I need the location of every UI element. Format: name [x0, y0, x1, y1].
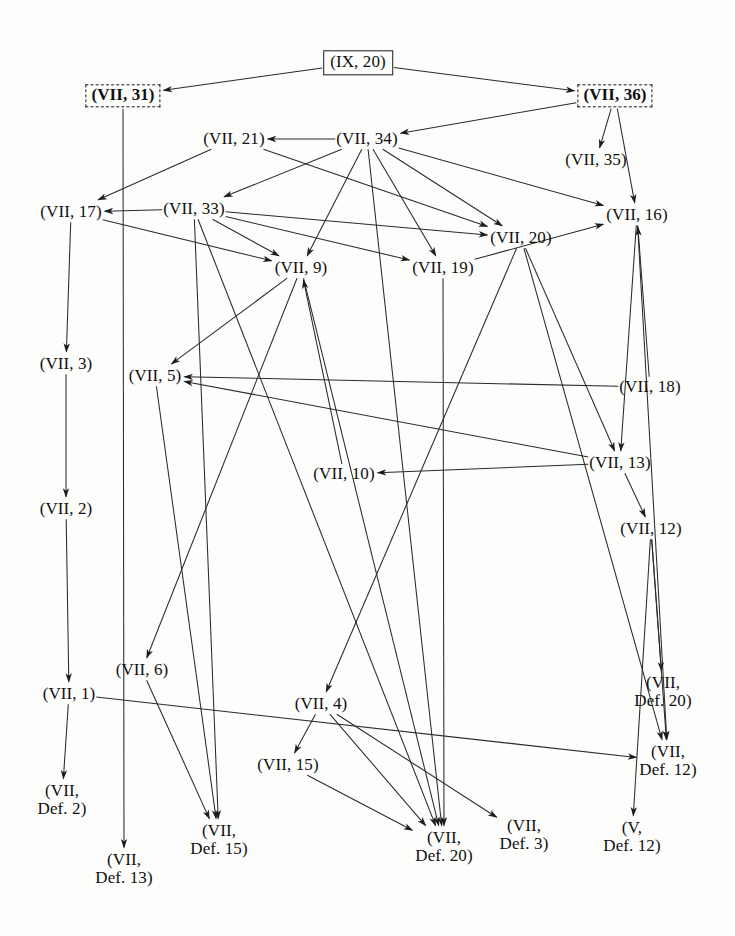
graph-edge: [172, 278, 288, 364]
node-label-line: Def. 15): [190, 840, 247, 858]
graph-edge: [105, 210, 163, 211]
node-label-line: (VII,: [415, 829, 472, 847]
graph-edge: [337, 714, 497, 817]
graph-node-vdef12[interactable]: (V,Def. 12): [603, 819, 660, 856]
graph-edge: [156, 386, 216, 818]
graph-edge: [304, 278, 439, 825]
node-label-line: (VII, 33): [163, 200, 224, 218]
graph-node-viidef2[interactable]: (VII,Def. 2): [38, 782, 87, 819]
graph-node-viidef15[interactable]: (VII,Def. 15): [190, 822, 247, 859]
node-label-line: (VII, 21): [203, 130, 264, 148]
graph-node-vii18[interactable]: (VII, 18): [619, 378, 680, 396]
node-label-line: (VII, 4): [295, 695, 348, 713]
graph-edge: [103, 220, 272, 261]
graph-edge: [226, 212, 488, 235]
graph-edge: [625, 473, 646, 517]
graph-edge: [307, 149, 362, 256]
graph-edge: [330, 714, 426, 825]
graph-node-vii2[interactable]: (VII, 2): [40, 500, 93, 518]
graph-edge: [526, 248, 615, 451]
node-label-line: (VII, 1): [43, 685, 96, 703]
node-label-line: (VII, 20): [490, 229, 551, 247]
node-label-line: (VII,: [38, 782, 87, 800]
graph-node-vii10[interactable]: (VII, 10): [313, 465, 374, 483]
graph-node-vii6[interactable]: (VII, 6): [116, 661, 169, 679]
graph-node-viidef13[interactable]: (VII,Def. 13): [95, 851, 152, 888]
graph-node-vii17[interactable]: (VII, 17): [40, 203, 101, 221]
node-label-line: Def. 20): [634, 692, 691, 710]
diagram-canvas: (IX, 20)(VII, 31)(VII, 36)(VII, 21)(VII,…: [0, 0, 735, 936]
node-label-line: (VII, 15): [257, 756, 318, 774]
node-label-line: (VII, 35): [565, 151, 626, 169]
graph-node-vii34[interactable]: (VII, 34): [336, 130, 397, 148]
node-label-line: (VII, 10): [313, 465, 374, 483]
node-label-line: (V,: [603, 819, 660, 837]
node-label-line: Def. 12): [639, 761, 696, 779]
graph-edge: [368, 149, 442, 825]
graph-node-vii21[interactable]: (VII, 21): [203, 130, 264, 148]
node-label-line: (VII, 36): [583, 86, 646, 104]
graph-edge: [638, 225, 667, 739]
node-label-line: (VII,: [500, 817, 549, 835]
node-label-line: (VII,: [190, 822, 247, 840]
graph-edge: [98, 149, 211, 200]
node-label-line: (VII, 13): [589, 454, 650, 472]
graph-node-vii1[interactable]: (VII, 1): [43, 685, 96, 703]
graph-node-viidef20[interactable]: (VII,Def. 20): [415, 829, 472, 866]
node-label-line: (VII, 17): [40, 203, 101, 221]
graph-node-viidef12[interactable]: (VII,Def. 12): [639, 743, 696, 780]
graph-node-vii3[interactable]: (VII, 3): [40, 355, 93, 373]
graph-edge: [524, 248, 662, 739]
graph-node-vii12[interactable]: (VII, 12): [620, 520, 681, 538]
node-label-line: (VII,: [634, 674, 691, 692]
node-label-line: (VII, 19): [412, 259, 473, 277]
node-label-line: Def. 13): [95, 869, 152, 887]
graph-node-viidef3[interactable]: (VII,Def. 3): [500, 817, 549, 854]
node-label-line: (VII, 3): [40, 355, 93, 373]
graph-node-vii35[interactable]: (VII, 35): [565, 151, 626, 169]
graph-node-vii9[interactable]: (VII, 9): [275, 259, 328, 277]
node-label-line: Def. 2): [38, 800, 87, 818]
node-label-line: (VII, 6): [116, 661, 169, 679]
graph-node-vii5[interactable]: (VII, 5): [129, 367, 182, 385]
graph-edge: [638, 227, 649, 377]
graph-edge: [184, 382, 588, 458]
graph-edge: [304, 280, 342, 464]
node-label-line: (VII, 34): [336, 130, 397, 148]
graph-edge: [198, 219, 436, 825]
graph-edge: [621, 225, 637, 451]
graph-node-vii4[interactable]: (VII, 4): [295, 695, 348, 713]
graph-edge: [63, 704, 68, 778]
graph-node-vii20[interactable]: (VII, 20): [490, 229, 551, 247]
graph-edge: [147, 278, 297, 658]
node-label-line: (VII,: [639, 743, 696, 761]
graph-node-vii13[interactable]: (VII, 13): [589, 454, 650, 472]
graph-node-ix20[interactable]: (IX, 20): [323, 50, 393, 75]
graph-edge: [394, 68, 575, 91]
graph-node-vii15[interactable]: (VII, 15): [257, 756, 318, 774]
graph-edge: [184, 377, 618, 387]
graph-edge: [66, 519, 69, 682]
graph-node-vii31[interactable]: (VII, 31): [85, 84, 160, 107]
graph-edge: [164, 68, 323, 90]
node-label-line: (VII, 2): [40, 500, 93, 518]
graph-node-viidef20b[interactable]: (VII,Def. 20): [634, 674, 691, 711]
graph-node-vii33[interactable]: (VII, 33): [163, 200, 224, 218]
node-label-line: (VII, 16): [606, 206, 667, 224]
graph-edge: [226, 217, 410, 261]
graph-node-vii16[interactable]: (VII, 16): [606, 206, 667, 224]
node-label-line: Def. 12): [603, 837, 660, 855]
node-label-line: (VII, 9): [275, 259, 328, 277]
graph-edge: [307, 775, 412, 830]
node-label-line: (VII, 31): [91, 86, 154, 104]
graph-edge: [66, 222, 70, 352]
graph-edge: [373, 149, 436, 256]
node-label-line: Def. 3): [500, 835, 549, 853]
node-label-line: (VII, 12): [620, 520, 681, 538]
graph-node-vii36[interactable]: (VII, 36): [577, 84, 652, 107]
graph-node-vii19[interactable]: (VII, 19): [412, 259, 473, 277]
graph-edge: [401, 103, 577, 134]
graph-edge: [378, 464, 589, 472]
node-label-line: (VII, 18): [619, 378, 680, 396]
graph-edge: [600, 109, 612, 148]
